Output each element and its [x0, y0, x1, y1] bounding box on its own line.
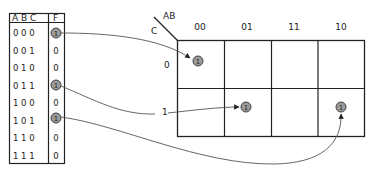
mapping-arrows [61, 33, 341, 164]
truth-table-header-output: F [53, 13, 58, 23]
kmap-cell-one: 1 [336, 102, 346, 112]
truth-table-output-highlight: 1 [51, 113, 61, 123]
truth-table-row-output: 0 [53, 46, 58, 56]
kmap-cell-one: 1 [193, 56, 203, 66]
kmap-cell-one: 1 [241, 102, 251, 112]
truth-table-to-kmap-diagram: A B C F 0 0 0 0 0 1 0 1 0 0 1 1 1 0 0 1 … [0, 0, 374, 194]
truth-table-row-inputs: 1 0 1 [13, 116, 35, 126]
truth-table-row-inputs: 0 1 0 [13, 63, 35, 73]
kmap-col-label: 00 [194, 22, 206, 32]
kmap-col-label: 10 [335, 22, 347, 32]
arrow-row0-to-cell-00-0 [61, 33, 190, 58]
truth-table-row-inputs: 0 0 0 [13, 28, 35, 38]
truth-table-row-output: 1 [54, 30, 58, 38]
arrow-row3-to-cell-01-1 [61, 86, 239, 114]
truth-table-output-highlight: 1 [51, 80, 61, 90]
kmap-row-var-label: C [151, 26, 157, 36]
truth-table-row-inputs: 1 0 0 [13, 98, 35, 108]
truth-table-row-output: 0 [53, 133, 58, 143]
truth-table-row-inputs: 0 0 1 [13, 46, 35, 56]
kmap-cell-value: 1 [339, 104, 343, 112]
truth-table-row-output: 0 [53, 98, 58, 108]
karnaugh-map: AB C 00 01 11 10 0 1 1 1 1 [151, 11, 365, 137]
truth-table: A B C F 0 0 0 0 0 1 0 1 0 0 1 1 1 0 0 1 … [10, 13, 65, 164]
kmap-row-label: 0 [164, 60, 170, 70]
truth-table-row-inputs: 1 1 0 [13, 133, 35, 143]
truth-table-row-inputs: 0 1 1 [13, 81, 35, 91]
truth-table-row-output: 1 [54, 82, 58, 90]
kmap-cell-value: 1 [244, 104, 248, 112]
truth-table-row-inputs: 1 1 1 [13, 151, 35, 161]
arrow-row5-to-cell-10-1 [61, 114, 341, 164]
truth-table-row-output: 1 [54, 115, 58, 123]
kmap-cell-value: 1 [196, 58, 200, 66]
kmap-col-label: 11 [288, 22, 299, 32]
truth-table-rows: 0 0 0 0 0 1 0 1 0 0 1 1 1 0 0 1 0 1 1 1 … [13, 28, 61, 161]
truth-table-output-highlight: 1 [51, 28, 61, 38]
kmap-col-label: 01 [241, 22, 252, 32]
kmap-col-var-label: AB [163, 11, 175, 21]
kmap-row-label: 1 [162, 107, 168, 117]
truth-table-row-output: 0 [53, 151, 58, 161]
truth-table-header-inputs: A B C [12, 13, 36, 23]
truth-table-row-output: 0 [53, 63, 58, 73]
